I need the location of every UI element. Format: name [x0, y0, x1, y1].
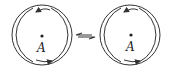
right-figure: A — [100, 5, 160, 65]
left-figure: A — [12, 5, 72, 65]
center-point — [129, 33, 132, 36]
center-point — [40, 34, 43, 37]
arrow-left-head — [76, 33, 92, 35]
center-label: A — [125, 40, 135, 54]
arc-arrow-bottom — [36, 60, 52, 62]
arc-arrow-top — [124, 9, 138, 12]
arc-arrow-top — [36, 9, 50, 12]
double-arrow-connector — [76, 33, 95, 39]
arrow-right-head — [78, 37, 95, 39]
center-label: A — [36, 41, 46, 55]
arc-arrow-bottom — [124, 60, 140, 62]
diagram-canvas: A A — [0, 0, 170, 71]
